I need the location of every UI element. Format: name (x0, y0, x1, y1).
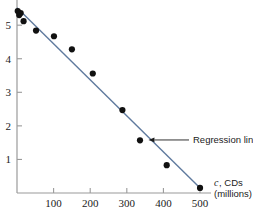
x-axis: 100200300400500 (17, 188, 211, 209)
x-axis-tick-label: 200 (82, 197, 99, 209)
x-axis-caption-text: , CDs (219, 177, 243, 188)
data-point (90, 70, 96, 76)
chart-canvas: 12345 100200300400500 Regression line c … (0, 0, 253, 223)
y-axis-tick-label: 1 (6, 153, 12, 165)
x-axis-tick-label: 400 (155, 197, 172, 209)
data-point (137, 137, 143, 143)
regression-line-path (17, 8, 202, 190)
data-point (164, 162, 170, 168)
data-point (18, 10, 24, 16)
y-axis-tick-label: 3 (6, 86, 12, 98)
x-axis-tick-label: 100 (45, 197, 62, 209)
y-axis-ticks (17, 25, 22, 159)
annotation-label: Regression line (193, 134, 253, 145)
x-axis-units-text: (millions) (214, 188, 252, 199)
x-axis-ticks (54, 188, 200, 193)
x-axis-tick-label: 500 (192, 197, 209, 209)
data-point (20, 18, 26, 24)
y-axis-tick-label: 5 (6, 19, 12, 31)
data-point (69, 46, 75, 52)
y-axis-tick-label: 2 (6, 120, 12, 132)
y-axis: 12345 (6, 0, 23, 193)
x-axis-caption: c , CDs (millions) (214, 177, 252, 200)
data-point (51, 33, 57, 39)
regression-line-annotation: Regression line (148, 134, 253, 145)
data-point (119, 107, 125, 113)
x-axis-tick-labels: 100200300400500 (45, 197, 208, 209)
regression-scatter-chart: 12345 100200300400500 Regression line c … (0, 0, 253, 223)
regression-line (17, 8, 202, 190)
y-axis-tick-label: 4 (6, 53, 12, 65)
y-axis-tick-labels: 12345 (6, 19, 12, 165)
data-point (197, 185, 203, 191)
data-point (33, 27, 39, 33)
x-axis-tick-label: 300 (119, 197, 136, 209)
